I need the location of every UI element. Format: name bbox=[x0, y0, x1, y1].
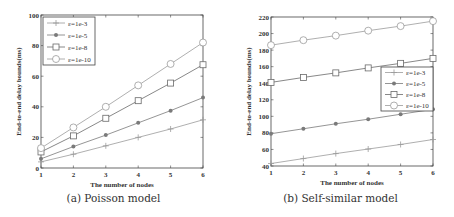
square-marker bbox=[70, 133, 76, 139]
y-tick-label: 220 bbox=[259, 14, 270, 22]
circle-marker bbox=[397, 23, 404, 30]
y-tick-label: 160 bbox=[259, 63, 270, 71]
x-tick-label: 4 bbox=[366, 169, 370, 177]
square-marker bbox=[398, 60, 404, 66]
legend: ε=1e-3ε=1e-5ε=1e-8ε=1e-10 bbox=[381, 67, 433, 111]
legend-entry-label: ε=1e-3 bbox=[68, 20, 88, 28]
y-tick-label: 0 bbox=[36, 165, 40, 173]
x-tick-label: 1 bbox=[39, 171, 43, 179]
y-tick-label: 20 bbox=[32, 134, 40, 142]
figure-caption-self-similar: (b) Self-similar model bbox=[227, 192, 454, 204]
circle-marker bbox=[70, 124, 77, 131]
y-tick-label: 200 bbox=[259, 30, 270, 38]
square-marker bbox=[135, 98, 141, 104]
square-marker bbox=[268, 79, 274, 85]
y-tick-label: 80 bbox=[32, 42, 40, 50]
x-tick-label: 5 bbox=[399, 169, 403, 177]
dot-marker bbox=[169, 109, 173, 113]
square-marker bbox=[333, 70, 339, 76]
y-tick-label: 120 bbox=[259, 96, 270, 104]
y-axis-label: End-to-end delay bounds(ms) bbox=[15, 47, 23, 136]
dot-marker bbox=[392, 82, 396, 86]
x-tick-label: 2 bbox=[302, 169, 306, 177]
square-marker bbox=[168, 80, 174, 86]
circle-marker bbox=[102, 103, 109, 110]
dot-marker bbox=[104, 133, 108, 137]
x-tick-label: 2 bbox=[72, 171, 76, 179]
legend-entry-label: ε=1e-8 bbox=[406, 91, 426, 99]
square-marker bbox=[53, 44, 59, 50]
dot-marker bbox=[136, 121, 140, 125]
x-axis-label: The number of nodes bbox=[320, 179, 384, 187]
square-marker bbox=[391, 92, 397, 98]
x-tick-label: 4 bbox=[136, 171, 140, 179]
legend-entry-label: ε=1e-10 bbox=[406, 102, 429, 110]
x-tick-label: 1 bbox=[269, 169, 273, 177]
square-marker bbox=[365, 65, 371, 71]
chart-panel-self-similar: 123456406080100120140160180200220The num… bbox=[227, 0, 454, 217]
x-tick-label: 6 bbox=[431, 169, 435, 177]
square-marker bbox=[103, 115, 109, 121]
dot-marker bbox=[71, 145, 75, 149]
line-chart-self-similar: 123456406080100120140160180200220The num… bbox=[227, 0, 454, 190]
y-tick-label: 80 bbox=[262, 129, 270, 137]
legend-entry-label: ε=1e-10 bbox=[68, 56, 91, 64]
legend-entry-label: ε=1e-5 bbox=[406, 80, 426, 88]
legend: ε=1e-3ε=1e-5ε=1e-8ε=1e-10 bbox=[43, 17, 95, 65]
circle-marker bbox=[268, 42, 275, 49]
legend-entry-label: ε=1e-3 bbox=[406, 69, 426, 77]
y-axis-label: End-to-end delay bounds(ms) bbox=[245, 47, 253, 136]
circle-marker bbox=[53, 56, 60, 63]
dot-marker bbox=[366, 117, 370, 121]
x-tick-label: 6 bbox=[201, 171, 205, 179]
legend-entry-label: ε=1e-8 bbox=[68, 44, 88, 52]
dot-marker bbox=[39, 157, 43, 161]
square-marker bbox=[430, 55, 436, 61]
circle-marker bbox=[332, 32, 339, 39]
y-tick-label: 60 bbox=[262, 146, 270, 154]
y-tick-label: 180 bbox=[259, 47, 270, 55]
y-tick-label: 100 bbox=[29, 12, 40, 20]
circle-marker bbox=[365, 27, 372, 34]
dot-marker bbox=[54, 33, 58, 37]
chart-panel-poisson: 123456020406080100The number of nodesEnd… bbox=[0, 0, 227, 217]
dot-marker bbox=[334, 122, 338, 126]
x-tick-label: 3 bbox=[104, 171, 108, 179]
dot-marker bbox=[399, 112, 403, 116]
legend-entry-label: ε=1e-5 bbox=[68, 32, 88, 40]
square-marker bbox=[300, 74, 306, 80]
circle-marker bbox=[200, 39, 207, 46]
dot-marker bbox=[269, 132, 273, 136]
circle-marker bbox=[135, 82, 142, 89]
figure-caption-poisson: (a) Poisson model bbox=[0, 192, 227, 204]
x-tick-label: 5 bbox=[169, 171, 173, 179]
line-chart-poisson: 123456020406080100The number of nodesEnd… bbox=[0, 0, 227, 190]
y-tick-label: 40 bbox=[32, 103, 40, 111]
dot-marker bbox=[301, 127, 305, 131]
circle-marker bbox=[167, 60, 174, 67]
y-tick-label: 100 bbox=[259, 113, 270, 121]
x-axis-label: The number of nodes bbox=[90, 181, 154, 189]
y-tick-label: 60 bbox=[32, 73, 40, 81]
square-marker bbox=[200, 62, 206, 68]
dot-marker bbox=[201, 96, 205, 100]
x-tick-label: 3 bbox=[334, 169, 338, 177]
circle-marker bbox=[430, 18, 437, 25]
circle-marker bbox=[300, 37, 307, 44]
circle-marker bbox=[38, 145, 45, 152]
circle-marker bbox=[391, 102, 398, 109]
